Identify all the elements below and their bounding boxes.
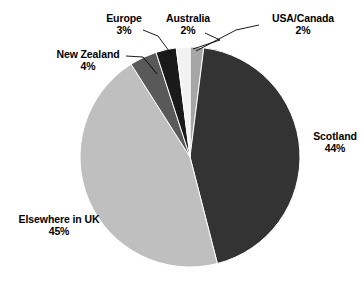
slice-label-australia-name: Australia: [166, 12, 210, 24]
slice-label-new-zealand-value: 4%: [44, 60, 132, 72]
slice-label-new-zealand-name: New Zealand: [56, 48, 119, 60]
slice-label-new-zealand: New Zealand 4%: [44, 48, 132, 73]
pie-slices: [80, 47, 300, 267]
slice-label-usa-canada-value: 2%: [262, 24, 344, 36]
slice-label-australia-value: 2%: [156, 24, 220, 36]
slice-label-scotland: Scotland 44%: [306, 130, 364, 155]
slice-label-usa-canada: USA/Canada 2%: [262, 12, 344, 37]
slice-label-elsewhere-in-uk-value: 45%: [6, 225, 112, 237]
slice-label-scotland-value: 44%: [306, 142, 364, 154]
slice-label-australia: Australia 2%: [156, 12, 220, 37]
slice-label-europe: Europe 3%: [96, 12, 152, 37]
slice-label-europe-name: Europe: [106, 12, 142, 24]
slice-label-elsewhere-in-uk: Elsewhere in UK 45%: [6, 213, 112, 238]
slice-label-scotland-name: Scotland: [313, 130, 357, 142]
pie-chart: Europe 3% Australia 2% USA/Canada 2% New…: [0, 0, 364, 288]
slice-label-elsewhere-in-uk-name: Elsewhere in UK: [19, 213, 100, 225]
slice-label-europe-value: 3%: [96, 24, 152, 36]
slice-label-usa-canada-name: USA/Canada: [272, 12, 334, 24]
